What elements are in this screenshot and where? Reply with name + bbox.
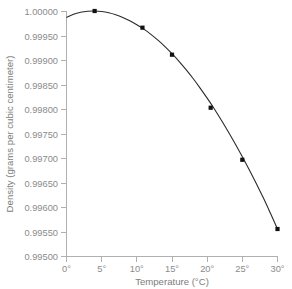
x-axis-tick-labels: 0° 5° 10° 15° 20° 25° 30° <box>62 264 285 274</box>
density-temperature-line-chart: 1.00000 0.99950 0.99900 0.99850 0.99800 … <box>0 0 292 289</box>
y-axis-tick-marks <box>61 12 66 257</box>
data-point-marker <box>140 26 144 30</box>
x-tick-label: 30° <box>270 264 284 274</box>
y-axis-title: Density (grams per cubic centimeter) <box>4 56 15 213</box>
y-tick-label: 0.99550 <box>24 228 58 238</box>
x-tick-label: 25° <box>235 264 249 274</box>
y-tick-label: 0.99950 <box>24 32 58 42</box>
data-point-marker <box>275 227 279 231</box>
y-tick-label: 1.00000 <box>24 7 58 17</box>
x-tick-label: 10° <box>130 264 144 274</box>
data-point-markers <box>93 9 280 231</box>
x-axis-tick-marks <box>67 257 278 263</box>
y-tick-label: 0.99700 <box>24 154 58 164</box>
plot-axes <box>67 11 278 257</box>
data-point-marker <box>240 158 244 162</box>
x-tick-label: 15° <box>165 264 179 274</box>
density-curve <box>67 11 278 229</box>
y-tick-label: 0.99850 <box>24 81 58 91</box>
y-tick-label: 0.99900 <box>24 56 58 66</box>
y-tick-label: 0.99500 <box>24 252 58 262</box>
y-tick-label: 0.99600 <box>24 203 58 213</box>
data-point-marker <box>170 53 174 57</box>
y-axis-tick-labels: 1.00000 0.99950 0.99900 0.99850 0.99800 … <box>24 7 58 262</box>
data-point-marker <box>93 9 97 13</box>
data-point-marker <box>209 106 213 110</box>
y-tick-label: 0.99800 <box>24 105 58 115</box>
x-tick-label: 5° <box>97 264 106 274</box>
chart-container: 1.00000 0.99950 0.99900 0.99850 0.99800 … <box>0 0 292 289</box>
y-tick-label: 0.99650 <box>24 179 58 189</box>
x-tick-label: 0° <box>62 264 71 274</box>
x-axis-title: Temperature (°C) <box>135 276 209 287</box>
x-tick-label: 20° <box>200 264 214 274</box>
y-tick-label: 0.99750 <box>24 130 58 140</box>
